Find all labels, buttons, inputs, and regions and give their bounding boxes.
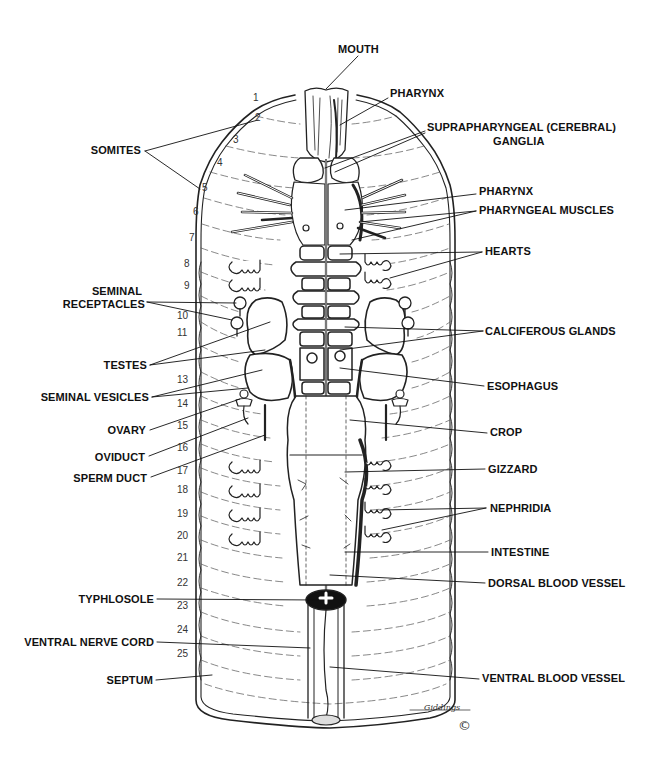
pharynx-mouth <box>305 88 348 162</box>
somite-number: 22 <box>177 578 188 588</box>
somite-number: 10 <box>177 311 188 321</box>
somite-number: 15 <box>177 421 188 431</box>
label-esophagus: ESOPHAGUS <box>487 380 558 393</box>
label-dorsal-blood-vessel: DORSAL BLOOD VESSEL <box>488 577 625 590</box>
copyright-symbol: © <box>458 718 471 733</box>
label-typhlosole: TYPHLOSOLE <box>78 593 154 606</box>
label-somites: SOMITES <box>91 144 141 157</box>
artist-signature: Giddings <box>424 703 460 712</box>
label-intestine: INTESTINE <box>491 546 549 559</box>
label-crop: CROP <box>490 426 522 439</box>
digestive-tract <box>287 396 366 585</box>
somite-number: 25 <box>177 649 188 659</box>
somite-number: 2 <box>255 113 261 123</box>
intestine-section <box>306 590 346 725</box>
label-pharyngeal-muscles: PHARYNGEAL MUSCLES <box>479 204 614 217</box>
somite-number: 14 <box>177 399 188 409</box>
label-seminal-vesicles: SEMINAL VESICLES <box>41 391 149 404</box>
somite-number: 24 <box>177 625 188 635</box>
label-ventral-blood-vessel: VENTRAL BLOOD VESSEL <box>482 672 625 685</box>
somite-number: 8 <box>184 259 190 269</box>
label-pharynx-top: PHARYNX <box>390 87 444 100</box>
somite-number: 21 <box>177 553 188 563</box>
label-ganglia: GANGLIA <box>493 135 544 148</box>
label-hearts: HEARTS <box>485 245 531 258</box>
label-ovary: OVARY <box>108 424 146 437</box>
label-ventral-nerve-cord: VENTRAL NERVE CORD <box>24 636 154 649</box>
somite-number: 4 <box>217 158 223 168</box>
pharyngeal-muscles <box>232 175 405 245</box>
label-nephridia: NEPHRIDIA <box>490 502 551 515</box>
somite-number: 13 <box>177 375 188 385</box>
label-pharynx: PHARYNX <box>479 185 533 198</box>
label-calciferous-glands: CALCIFEROUS GLANDS <box>485 325 616 338</box>
label-seminal-receptacles-line2: RECEPTACLES <box>63 298 145 311</box>
label-septum: SEPTUM <box>107 674 153 687</box>
label-gizzard: GIZZARD <box>488 463 538 476</box>
somite-number: 6 <box>193 207 199 217</box>
somite-number: 17 <box>177 466 188 476</box>
label-oviduct: OVIDUCT <box>95 451 145 464</box>
somite-number: 9 <box>184 281 190 291</box>
somite-number: 3 <box>233 135 239 145</box>
label-mouth: MOUTH <box>338 43 379 56</box>
somite-number: 16 <box>177 443 188 453</box>
somite-number: 11 <box>177 328 187 338</box>
label-sperm-duct: SPERM DUCT <box>73 472 147 485</box>
label-suprapharyngeal-ganglia: SUPRAPHARYNGEAL (CEREBRAL) <box>427 121 616 134</box>
somite-number: 18 <box>177 485 188 495</box>
somite-number: 1 <box>253 93 259 103</box>
label-testes: TESTES <box>104 359 147 372</box>
somite-number: 7 <box>189 233 195 243</box>
label-seminal-receptacles-line1: SEMINAL <box>88 285 146 298</box>
somite-number: 19 <box>177 509 188 519</box>
somite-number: 5 <box>202 183 208 193</box>
earthworm-anatomy-diagram: MOUTH PHARYNX SUPRAPHARYNGEAL (CEREBRAL)… <box>0 0 653 772</box>
somite-number: 23 <box>177 601 188 611</box>
somite-number: 20 <box>177 531 188 541</box>
